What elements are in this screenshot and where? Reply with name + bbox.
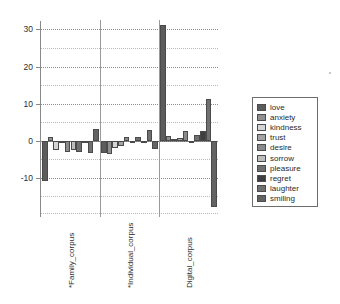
gridline-minor (41, 122, 218, 123)
y-axis-tick (36, 104, 41, 105)
gridline-minor (41, 159, 218, 160)
legend-item-trust[interactable]: trust (257, 133, 317, 143)
bar-smiling-group-1[interactable] (93, 129, 99, 140)
legend-item-kindness[interactable]: kindness (257, 122, 317, 132)
gridline-minor (41, 196, 218, 197)
legend-label: kindness (270, 123, 302, 132)
legend-item-smiling[interactable]: smiling (257, 194, 317, 204)
y-axis-tick-label: 20 (0, 62, 33, 72)
legend-label: pleasure (270, 164, 301, 173)
bar-trust-group-2[interactable] (118, 141, 124, 147)
group-separator-1 (100, 20, 101, 217)
y-axis-tick-label: 30 (0, 24, 33, 34)
legend-label: smiling (270, 194, 295, 203)
x-axis-label-2: *Individual_corpus (126, 223, 135, 288)
gridline-minor (41, 48, 218, 49)
legend-swatch-icon (257, 185, 266, 192)
gridline-minor (41, 213, 218, 214)
y-axis-labels: 3020100-10 (0, 0, 36, 304)
legend-item-pleasure[interactable]: pleasure (257, 163, 317, 173)
legend-item-anxiety[interactable]: anxiety (257, 112, 317, 122)
bar-regret-group-2[interactable] (141, 141, 147, 143)
plot-area (41, 22, 218, 216)
bar-smiling-group-3[interactable] (211, 141, 217, 208)
legend-label: desire (270, 143, 292, 152)
legend-label: love (270, 103, 285, 112)
y-axis-tick (36, 141, 41, 142)
gridline-major (41, 29, 218, 30)
y-axis-tick (36, 178, 41, 179)
legend-swatch-icon (257, 134, 266, 141)
stray-speck (329, 72, 331, 74)
bar-sorrow-group-3[interactable] (189, 141, 195, 143)
legend-swatch-icon (257, 165, 266, 172)
bar-laughter-group-2[interactable] (147, 130, 153, 141)
legend-swatch-icon (257, 155, 266, 162)
legend-swatch-icon (257, 144, 266, 151)
gridline-major (41, 178, 218, 179)
legend-swatch-icon (257, 124, 266, 131)
gridline-major (41, 104, 218, 105)
chart-figure: 3020100-10 *Family_corpus*Individual_cor… (0, 0, 340, 304)
legend-swatch-icon (257, 114, 266, 121)
legend-swatch-icon (257, 175, 266, 182)
x-axis-label-3: Digital_corpus (185, 237, 194, 288)
bar-smiling-group-2[interactable] (152, 141, 158, 150)
bar-laughter-group-3[interactable] (206, 99, 212, 141)
legend-label: regret (270, 174, 291, 183)
group-separator-2 (159, 20, 160, 217)
y-axis-tick-label: -10 (0, 173, 33, 183)
legend-swatch-icon (257, 104, 266, 111)
y-axis-tick-label: 0 (0, 136, 33, 146)
y-axis-tick (36, 67, 41, 68)
legend-item-sorrow[interactable]: sorrow (257, 153, 317, 163)
legend-swatch-icon (257, 195, 266, 202)
gridline-major (41, 67, 218, 68)
x-axis-label-1: *Family_corpus (67, 233, 76, 288)
y-axis-tick-label: 10 (0, 99, 33, 109)
legend-item-desire[interactable]: desire (257, 143, 317, 153)
chart-legend: loveanxietykindnesstrustdesiresorrowplea… (252, 97, 318, 207)
legend-label: sorrow (270, 154, 294, 163)
legend-item-laughter[interactable]: laughter (257, 184, 317, 194)
bar-love-group-3[interactable] (160, 25, 166, 141)
bar-sorrow-group-2[interactable] (130, 141, 136, 143)
legend-item-love[interactable]: love (257, 102, 317, 112)
bar-love-group-1[interactable] (42, 141, 48, 182)
legend-item-regret[interactable]: regret (257, 173, 317, 183)
y-axis-tick (36, 29, 41, 30)
bar-desire-group-3[interactable] (183, 131, 189, 140)
legend-label: trust (270, 133, 286, 142)
legend-label: anxiety (270, 113, 295, 122)
legend-label: laughter (270, 184, 299, 193)
gridline-minor (41, 85, 218, 86)
bar-laughter-group-1[interactable] (88, 141, 94, 153)
